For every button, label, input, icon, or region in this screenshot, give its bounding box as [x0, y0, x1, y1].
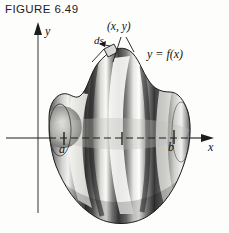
curve-equation-label: y = f(x)	[147, 47, 183, 62]
arc-length-label: ds	[94, 34, 104, 46]
tick-label-b: b	[168, 140, 174, 155]
figure-panel: FIGURE 6.49 y x a b ds (x, y) y = f(x)	[0, 0, 229, 233]
figure-caption: FIGURE 6.49	[5, 3, 78, 15]
surface-of-revolution-illustration	[0, 0, 229, 233]
x-axis-label: x	[208, 140, 213, 155]
point-label: (x, y)	[107, 20, 131, 32]
tick-label-a: a	[59, 142, 65, 157]
y-axis-label: y	[45, 24, 50, 39]
y-axis-arrowhead	[34, 22, 42, 35]
